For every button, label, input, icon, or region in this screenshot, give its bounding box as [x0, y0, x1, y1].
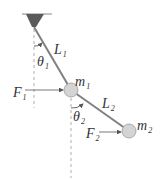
- label-theta2: θ2: [73, 108, 84, 124]
- pivot-support-icon: [26, 14, 44, 27]
- label-theta1: θ1: [37, 53, 48, 69]
- mass-2: [122, 124, 136, 138]
- double-pendulum-diagram: L1 θ1 m1 F1 L2 θ2 m2 F2: [0, 0, 164, 179]
- label-L2: L2: [102, 95, 114, 111]
- theta1-arc: [34, 43, 42, 46]
- label-L1: L1: [54, 41, 66, 57]
- label-m1: m1: [75, 73, 89, 89]
- label-m2: m2: [137, 117, 151, 133]
- label-F1: F1: [13, 84, 26, 100]
- label-F2: F2: [86, 125, 99, 141]
